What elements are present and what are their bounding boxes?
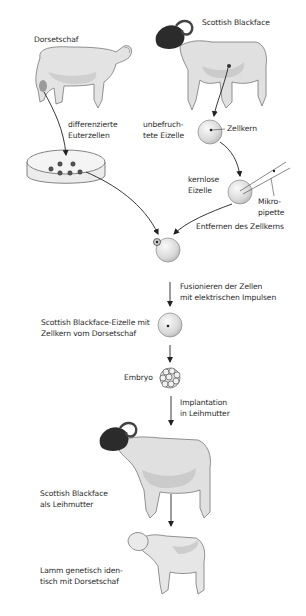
dorset-sheep-icon bbox=[36, 46, 132, 108]
label-hybrid-cell-2: Zellkern vom Dorsetschaf bbox=[41, 329, 136, 339]
arrow-sheep-to-dish bbox=[44, 92, 66, 155]
label-micropipette-2: pipette bbox=[258, 208, 284, 218]
diagram-graphics bbox=[0, 0, 306, 616]
label-embryo: Embryo bbox=[124, 373, 153, 383]
arrow-dish-to-fusion bbox=[86, 172, 158, 234]
label-lamb-2: tisch mit Dorsetschaf bbox=[40, 577, 119, 587]
label-nucleus: Zellkern bbox=[227, 124, 257, 134]
label-surrogate-1: Scottish Blackface bbox=[40, 489, 108, 499]
egg-cell-icon bbox=[198, 120, 225, 144]
label-hybrid-cell-1: Scottish Blackface-Eizelle mit bbox=[41, 318, 150, 328]
label-fusion-2: mit elektrischen Impulsen bbox=[180, 293, 276, 303]
label-remove-nucleus: Entfernen des Zellkerns bbox=[196, 222, 284, 232]
label-unfertilized-2: tete Eizelle bbox=[143, 131, 184, 141]
hybrid-cell-icon bbox=[158, 313, 182, 337]
label-unfertilized-1: unbefruch- bbox=[143, 120, 183, 130]
label-implant-1: Implantation bbox=[180, 398, 227, 408]
label-scottish-blackface: Scottish Blackface bbox=[202, 18, 270, 28]
lamb-icon bbox=[128, 533, 205, 594]
label-dorset-sheep: Dorsetschaf bbox=[34, 35, 78, 45]
label-implant-2: in Leihmutter bbox=[180, 409, 230, 419]
label-lamb-1: Lamm genetisch iden- bbox=[40, 566, 123, 576]
fused-cells-icon bbox=[154, 238, 181, 262]
label-surrogate-2: als Leihmutter bbox=[40, 500, 93, 510]
label-udder-cells-1: differenzierte bbox=[68, 120, 118, 130]
label-udder-cells-2: Euterzellen bbox=[68, 131, 110, 141]
label-enucleated-2: Eizelle bbox=[188, 186, 212, 196]
blackface-sheep-icon bbox=[156, 21, 267, 110]
label-fusion-1: Fusionieren der Zellen bbox=[180, 282, 262, 292]
cloning-diagram: Dorsetschaf Scottish Blackface differenz… bbox=[0, 0, 306, 616]
arrow-egg-to-enucleated bbox=[220, 142, 240, 176]
surrogate-sheep-icon bbox=[100, 423, 211, 518]
label-enucleated-1: kernlose bbox=[188, 175, 219, 185]
embryo-icon bbox=[160, 368, 180, 388]
enucleated-cell-icon bbox=[228, 180, 252, 204]
label-micropipette-1: Mikro- bbox=[258, 197, 281, 207]
